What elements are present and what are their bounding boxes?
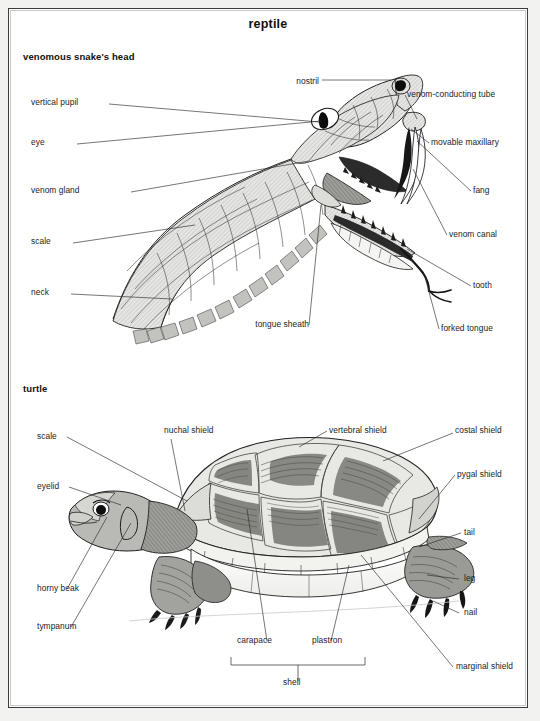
label-tympanum: tympanum (37, 621, 77, 631)
turtle-drawing (69, 438, 474, 630)
label-leg: leg (464, 573, 475, 583)
label-scale-turtle: scale (37, 431, 57, 441)
label-carapace: carapace (237, 635, 272, 645)
label-horny-beak: horny beak (37, 583, 79, 593)
label-shell: shell (283, 677, 300, 687)
label-nuchal-shield: nuchal shield (164, 425, 214, 435)
label-tail: tail (464, 527, 475, 537)
turtle-illustration (9, 9, 528, 708)
label-eyelid: eyelid (37, 481, 59, 491)
label-vertebral-shield: vertebral shield (329, 425, 387, 435)
label-pygal-shield: pygal shield (457, 469, 502, 479)
label-nail: nail (464, 607, 477, 617)
label-costal-shield: costal shield (455, 425, 502, 435)
label-marginal-shield: marginal shield (456, 661, 513, 671)
diagram-page: reptile venomous snake's head (8, 8, 528, 708)
label-plastron: plastron (312, 635, 342, 645)
